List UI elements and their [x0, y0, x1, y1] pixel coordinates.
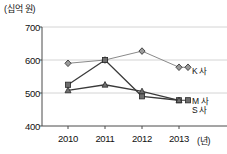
series-label-s: S 사	[192, 103, 207, 115]
series-label-k: K 사	[192, 64, 207, 76]
chart-canvas	[0, 0, 227, 154]
axis-ticks	[39, 27, 179, 129]
series-markers	[65, 48, 191, 103]
line-chart: (십억 원) 700 600 500 400 2010 2011 2012 20…	[0, 0, 227, 154]
